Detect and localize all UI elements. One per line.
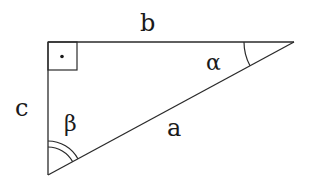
right-angle-dot bbox=[60, 55, 64, 59]
beta-angle-arc-outer bbox=[48, 141, 78, 159]
beta-angle-arc-inner bbox=[48, 147, 73, 162]
beta-label: β bbox=[64, 111, 77, 136]
side-a-label: a bbox=[167, 114, 181, 142]
right-triangle-diagram: b c a α β bbox=[0, 0, 312, 195]
side-a-hypotenuse-line bbox=[48, 42, 294, 175]
side-b-label: b bbox=[140, 9, 155, 37]
alpha-label: α bbox=[206, 50, 221, 75]
side-c-label: c bbox=[15, 94, 28, 122]
alpha-angle-arc bbox=[244, 42, 250, 66]
